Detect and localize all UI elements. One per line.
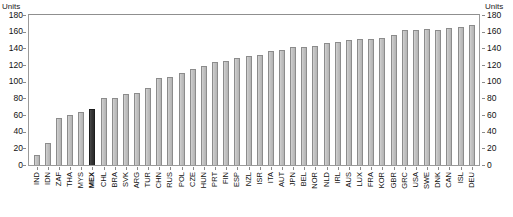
bar-slot-ita (265, 15, 276, 165)
y-tick-mark-left-160 (23, 32, 26, 33)
bar-lux (357, 39, 363, 165)
bar-tha (67, 115, 73, 165)
x-axis-label-irl: IRL (334, 172, 342, 184)
x-tick-mark-aus (349, 167, 350, 170)
x-label-slot-hun: HUN (198, 167, 209, 217)
y-tick-label-left-20: 20 (14, 144, 23, 153)
bar-pol (179, 73, 185, 165)
bar-ind (34, 155, 40, 165)
x-tick-mark-jpn (293, 167, 294, 170)
x-tick-mark-rus (170, 167, 171, 170)
bar-mex (89, 109, 95, 165)
x-tick-mark-bel (304, 167, 305, 170)
x-axis-label-swe: SWE (423, 172, 431, 189)
x-label-slot-chn: CHN (154, 167, 165, 217)
x-axis-label-rus: RUS (166, 172, 174, 188)
bar-slot-grc (399, 15, 410, 165)
bar-slot-usa (410, 15, 421, 165)
bar-slot-chl (98, 15, 109, 165)
bar-jpn (290, 47, 296, 165)
bar-slot-zaf (53, 15, 64, 165)
bar-slot-can (444, 15, 455, 165)
x-tick-mark-fra (371, 167, 372, 170)
y-tick-label-right-120: 120 (487, 61, 501, 70)
x-axis-label-can: CAN (445, 172, 453, 188)
x-tick-mark-usa (416, 167, 417, 170)
x-tick-mark-lux (360, 167, 361, 170)
x-axis-label-chn: CHN (155, 172, 163, 188)
x-label-slot-lux: LUX (355, 167, 366, 217)
x-label-slot-ita: ITA (265, 167, 276, 217)
x-axis-label-chl: CHL (100, 172, 108, 187)
x-tick-mark-nld (327, 167, 328, 170)
bar-slot-mys (76, 15, 87, 165)
bar-slot-swe (421, 15, 432, 165)
y-tick-label-right-100: 100 (487, 77, 501, 86)
bar-slot-idn (42, 15, 53, 165)
x-tick-mark-swe (427, 167, 428, 170)
bar-aut (279, 50, 285, 165)
y-tick-mark-left-180 (23, 15, 26, 16)
bar-zaf (56, 118, 62, 165)
x-axis-label-zaf: ZAF (55, 172, 63, 186)
bar-can (446, 28, 452, 165)
bar-nzl (246, 56, 252, 165)
bar-slot-mex (87, 15, 98, 165)
bar-slot-isr (254, 15, 265, 165)
bar-slot-cze (187, 15, 198, 165)
x-tick-mark-esp (237, 167, 238, 170)
x-axis-label-idn: IDN (44, 172, 52, 185)
x-tick-mark-mex (92, 167, 93, 170)
x-axis-label-prt: PRT (211, 172, 219, 187)
bar-slot-kor (377, 15, 388, 165)
bar-slot-fra (366, 15, 377, 165)
y-tick-label-left-120: 120 (9, 61, 23, 70)
bar-ita (268, 51, 274, 165)
x-label-slot-kor: KOR (377, 167, 388, 217)
y-tick-label-right-160: 160 (487, 27, 501, 36)
x-label-slot-bel: BEL (299, 167, 310, 217)
bar-usa (413, 30, 419, 165)
x-tick-mark-tha (70, 167, 71, 170)
y-tick-label-right-180: 180 (487, 11, 501, 20)
x-tick-mark-bra (115, 167, 116, 170)
bar-slot-irl (332, 15, 343, 165)
bar-slot-fin (221, 15, 232, 165)
x-label-slot-jpn: JPN (288, 167, 299, 217)
bar-svk (123, 94, 129, 165)
bar-slot-ind (31, 15, 42, 165)
bar-mys (78, 112, 84, 165)
x-label-slot-can: CAN (444, 167, 455, 217)
x-label-slot-fra: FRA (366, 167, 377, 217)
x-label-slot-irl: IRL (332, 167, 343, 217)
y-tick-mark-right-80 (482, 98, 485, 99)
x-tick-mark-svk (126, 167, 127, 170)
bar-aus (346, 40, 352, 165)
x-axis-label-bel: BEL (300, 172, 308, 186)
bar-irl (335, 42, 341, 165)
x-tick-mark-nor (315, 167, 316, 170)
bar-slot-deu (466, 15, 477, 165)
x-axis-label-fra: FRA (367, 172, 375, 187)
x-label-slot-ind: IND (31, 167, 42, 217)
x-axis-label-tha: THA (66, 172, 74, 187)
bar-series (29, 15, 479, 165)
x-label-slot-mex: MEX (87, 167, 98, 217)
y-axis-right: 180160140120100806040200 (482, 14, 508, 166)
x-axis-label-aus: AUS (345, 172, 353, 187)
bar-slot-hun (198, 15, 209, 165)
x-label-slot-aut: AUT (276, 167, 287, 217)
y-tick-mark-right-0 (482, 165, 485, 166)
x-tick-mark-deu (472, 167, 473, 170)
x-tick-mark-dnk (438, 167, 439, 170)
bar-nld (324, 43, 330, 165)
x-axis-label-gbr: GBR (390, 172, 398, 188)
bar-arg (134, 93, 140, 165)
x-label-slot-bra: BRA (109, 167, 120, 217)
x-axis-label-svk: SVK (122, 172, 130, 187)
y-tick-mark-right-20 (482, 148, 485, 149)
x-tick-mark-isr (260, 167, 261, 170)
x-tick-mark-aut (282, 167, 283, 170)
bar-slot-nld (321, 15, 332, 165)
x-tick-mark-mys (81, 167, 82, 170)
